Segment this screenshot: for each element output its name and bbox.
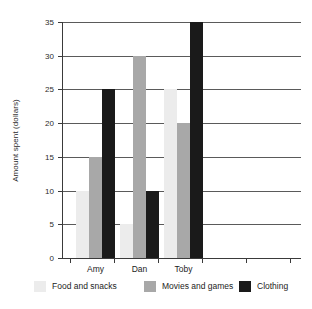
plot-area: 05101520253035 AmyDanToby [63,22,301,258]
gridline [63,56,301,57]
bar-amy-movies-and-games [89,157,102,258]
legend-label: Food and snacks [52,281,117,291]
y-axis-title: Amount spent (dollars) [8,22,22,258]
x-axis-label-toby: Toby [175,264,193,274]
bar-toby-clothing [190,22,203,258]
y-tick-label: 20 [45,119,54,128]
chart-legend: Food and snacksMovies and gamesClothing [34,279,302,293]
y-tick-label: 15 [45,152,54,161]
y-tick-label: 5 [50,220,54,229]
bar-dan-clothing [146,191,159,258]
legend-label: Clothing [257,281,288,291]
y-axis-title-text: Amount spent (dollars) [11,99,20,182]
y-tick: 25 [63,89,64,90]
x-tick-mark [114,258,115,263]
bar-toby-movies-and-games [177,123,190,258]
bar-dan-movies-and-games [133,56,146,258]
bar-toby-food-and-snacks [164,89,177,258]
legend-item-movies-and-games: Movies and games [144,279,233,293]
legend-swatch-icon [144,281,156,292]
gridline [63,89,301,90]
y-tick: 5 [63,224,64,225]
legend-swatch-icon [239,281,251,292]
y-tick-label: 35 [45,18,54,27]
x-axis-line [62,258,301,259]
legend-item-food-and-snacks: Food and snacks [34,279,117,293]
bar-dan-food-and-snacks [120,224,133,258]
y-tick: 0 [63,258,64,259]
y-tick-label: 30 [45,51,54,60]
x-axis-label-dan: Dan [132,264,148,274]
bar-amy-food-and-snacks [76,191,89,258]
x-tick-mark [202,258,203,263]
y-tick: 10 [63,191,64,192]
bar-amy-clothing [102,89,115,258]
legend-item-clothing: Clothing [239,279,288,293]
y-tick: 30 [63,56,64,57]
y-tick-label: 25 [45,85,54,94]
legend-swatch-icon [34,281,46,292]
bar-chart-figure: Amount spent (dollars) 05101520253035 Am… [0,0,312,309]
x-tick-mark [70,258,71,263]
y-tick-label: 0 [50,254,54,263]
x-tick-mark [158,258,159,263]
x-tick-mark [246,258,247,263]
legend-label: Movies and games [162,281,233,291]
y-tick: 15 [63,157,64,158]
x-tick-mark [290,258,291,263]
y-tick: 35 [63,22,64,23]
y-tick-label: 10 [45,186,54,195]
gridline [63,22,301,23]
x-axis-label-amy: Amy [87,264,104,274]
y-tick: 20 [63,123,64,124]
